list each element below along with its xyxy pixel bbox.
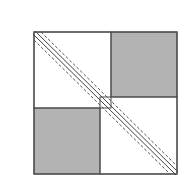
- white-square-bottom-right: [100, 97, 177, 174]
- shaded-square-top-right: [111, 32, 177, 97]
- shaded-square-bottom-left: [34, 108, 100, 174]
- white-square-top-left: [34, 32, 111, 108]
- quilt-block-diagram: [0, 0, 184, 175]
